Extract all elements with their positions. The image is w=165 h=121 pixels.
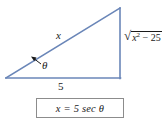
equation-box: x = 5 sec θ <box>36 98 124 118</box>
equation-text: x = 5 sec θ <box>56 103 104 114</box>
trig-substitution-figure: x 5 θ √ x2 − 25 x = 5 sec θ <box>0 0 165 121</box>
radicand-expression: x2 − 25 <box>131 31 162 43</box>
radical-sign-icon: √ <box>124 30 131 41</box>
radicand-remainder: − 25 <box>140 32 161 43</box>
angle-theta-label: θ <box>42 60 47 71</box>
base-label: 5 <box>58 81 64 92</box>
triangle-hypotenuse-line <box>6 8 120 78</box>
hypotenuse-label: x <box>56 30 61 41</box>
opposite-side-radical-label: √ x2 − 25 <box>124 30 162 43</box>
